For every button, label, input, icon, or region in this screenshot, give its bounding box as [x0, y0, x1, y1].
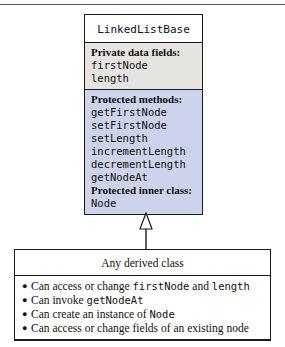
capability-text: Can create an instance of: [31, 308, 149, 320]
base-class-name: LinkedListBase: [97, 23, 190, 36]
capability-item: ●Can create an instance of Node: [22, 307, 264, 321]
capability-text: Can invoke: [31, 294, 87, 306]
derived-class-title-compartment: Any derived class: [15, 250, 270, 275]
method-item: getNodeAt: [91, 171, 196, 184]
code-identifier: Node: [149, 308, 174, 320]
code-identifier: length: [212, 280, 250, 292]
code-identifier: firstNode: [133, 280, 190, 292]
capability-text: Can access or change fields of an existi…: [31, 322, 249, 334]
bullet-icon: ●: [22, 307, 31, 321]
method-item: setFirstNode: [91, 119, 196, 132]
field-item: firstNode: [91, 59, 196, 72]
field-item: length: [91, 72, 196, 85]
method-item: getFirstNode: [91, 106, 196, 119]
derived-class-name: Any derived class: [101, 257, 183, 269]
derived-class-capabilities-compartment: ●Can access or change firstNode and leng…: [15, 275, 270, 339]
page-separator-rule: [0, 4, 285, 5]
capability-text: and: [189, 280, 211, 292]
capability-item: ●Can access or change fields of an exist…: [22, 321, 264, 335]
method-item: setLength: [91, 132, 196, 145]
base-class-box: LinkedListBase Private data fields: firs…: [84, 14, 203, 215]
code-identifier: getNodeAt: [87, 294, 144, 306]
base-class-title-compartment: LinkedListBase: [85, 15, 202, 42]
protected-inner-class-heading: Protected inner class:: [91, 184, 196, 197]
private-data-fields-heading: Private data fields:: [91, 46, 196, 59]
inner-class-item: Node: [91, 197, 196, 210]
bullet-icon: ●: [22, 279, 31, 293]
derived-class-box: Any derived class ●Can access or change …: [14, 249, 271, 341]
protected-methods-heading: Protected methods:: [91, 93, 196, 106]
capability-text: Can access or change: [31, 280, 133, 292]
bullet-icon: ●: [22, 321, 31, 335]
base-class-methods-compartment: Protected methods: getFirstNode setFirst…: [85, 89, 202, 214]
method-item: incrementLength: [91, 145, 196, 158]
capability-item: ●Can access or change firstNode and leng…: [22, 279, 264, 293]
bullet-icon: ●: [22, 293, 31, 307]
base-class-fields-compartment: Private data fields: firstNode length: [85, 42, 202, 89]
method-item: decrementLength: [91, 158, 196, 171]
capability-list: ●Can access or change firstNode and leng…: [22, 279, 264, 335]
capability-item: ●Can invoke getNodeAt: [22, 293, 264, 307]
